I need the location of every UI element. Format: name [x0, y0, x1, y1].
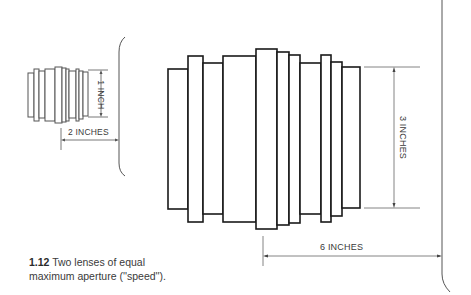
figure-number: 1.12: [29, 256, 49, 268]
figure-caption: 1.12 Two lenses of equal maximum apertur…: [29, 255, 166, 283]
left-bracket: [119, 37, 125, 176]
small-height-label: 1 INCH: [97, 80, 106, 106]
large-height-dimension: [364, 67, 420, 208]
small-lens: [28, 67, 88, 123]
caption-line-2: maximum aperture (''speed'').: [29, 270, 166, 282]
large-height-label: 3 INCHES: [398, 115, 407, 161]
caption-line-1: Two lenses of equal: [52, 256, 145, 268]
lens-comparison-figure: 1 INCH 2 INCHES 3 INCHES 6 INCHES 1.12 T…: [0, 0, 471, 295]
right-border: [442, 0, 450, 292]
small-length-label: 2 INCHES: [68, 128, 109, 137]
large-length-label: 6 INCHES: [320, 243, 363, 252]
large-lens: [168, 49, 360, 229]
